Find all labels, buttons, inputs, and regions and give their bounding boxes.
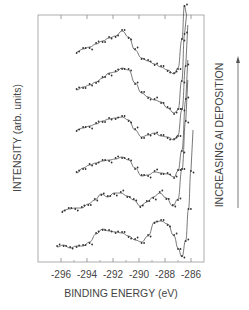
data-point [155,199,157,201]
data-point [116,195,118,197]
x-axis-ticks: -296-294-292-290-288-286 [51,15,201,280]
data-point [70,207,72,209]
data-point [159,191,161,193]
data-point [134,48,136,50]
data-point [177,199,179,201]
data-point [193,172,195,174]
x-tick-label: -288 [155,269,175,280]
data-point [154,170,156,172]
data-point [184,168,186,170]
data-point [163,219,165,221]
data-point [186,4,188,6]
data-point [137,82,139,84]
data-point [76,88,78,90]
data-point [78,129,80,131]
data-point [91,85,93,87]
data-point [142,205,144,207]
data-point [121,115,123,117]
data-point [187,64,189,66]
data-point [102,159,104,161]
data-point [173,113,175,115]
data-point [121,157,123,159]
data-point [102,76,104,78]
data-point [181,80,183,82]
data-point [187,97,189,99]
data-point [117,35,119,37]
data-point [102,41,104,43]
data-point [141,174,143,176]
y-axis-label: INTENSITY (arb. units) [11,84,23,192]
data-point [134,238,136,240]
data-point [130,39,132,41]
data-point [147,97,149,99]
data-point [160,134,162,136]
data-point [190,170,192,172]
data-point [167,172,169,174]
data-point [115,232,117,234]
data-point [148,200,150,202]
data-point [121,29,123,31]
data-point [141,137,143,139]
data-point [176,137,178,139]
data-point [98,41,100,43]
data-point [98,231,100,233]
data-point [167,137,169,139]
data-point [76,130,78,132]
deposition-annotation: INCREASING Al DEPOSITION [213,63,225,208]
data-point [104,159,106,161]
data-point [108,36,110,38]
data-point [156,169,158,171]
data-point [117,69,119,71]
data-point [181,38,183,40]
data-point [165,198,167,200]
x-tick-label: -296 [51,269,71,280]
data-point [174,206,176,208]
data-point [154,133,156,135]
data-point [76,246,78,248]
data-point [160,102,162,104]
data-point [85,87,87,89]
data-point [184,152,186,154]
data-point [176,176,178,178]
data-point [173,234,175,236]
data-point [177,135,179,137]
data-point [124,115,126,117]
data-point [180,248,182,250]
spectrum-line [62,80,188,211]
data-point [133,198,135,200]
data-point [173,138,175,140]
data-point [137,47,139,49]
data-point [177,108,179,110]
data-point [152,197,154,199]
data-point [167,224,169,226]
data-point [173,72,175,74]
data-point [139,206,141,208]
data-point [163,134,165,136]
data-point [172,204,174,206]
data-point [173,177,175,179]
data-point [167,106,169,108]
data-point [63,245,65,247]
data-point [176,71,178,73]
data-point [64,210,66,212]
data-point [141,91,143,93]
data-point [108,117,110,119]
data-point [104,41,106,43]
data-point [187,122,189,124]
increasing-arrow-icon [236,56,240,208]
data-point [111,75,113,77]
data-point [146,200,148,202]
data-point [56,245,58,247]
data-point [117,156,119,158]
data-point [77,210,79,212]
data-point [107,195,109,197]
data-point [163,173,165,175]
data-point [163,102,165,104]
data-point [109,195,111,197]
data-point [78,245,80,247]
data-point [184,82,186,84]
data-point [82,168,84,170]
data-point [150,99,152,101]
data-point [156,97,158,99]
data-point [95,82,97,84]
